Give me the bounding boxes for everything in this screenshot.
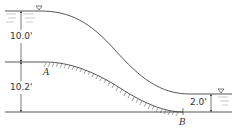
water-surface-triangle-downstream-icon [218, 89, 224, 93]
water-surface-profile [5, 11, 232, 94]
upstream-water-marks [6, 14, 35, 22]
water-surface-triangle-upstream-icon [36, 6, 42, 10]
spillway-bed-curve [45, 62, 183, 112]
label-downstream-depth: 2.0' [190, 98, 207, 107]
label-bed-drop: 10.2' [10, 83, 33, 92]
label-upstream-depth: 10.0' [10, 32, 33, 41]
channel-diagram [0, 0, 240, 140]
bed-hatching [44, 63, 178, 116]
downstream-water-marks [218, 97, 229, 105]
label-point-b: B [179, 118, 186, 127]
label-point-a: A [43, 68, 50, 77]
